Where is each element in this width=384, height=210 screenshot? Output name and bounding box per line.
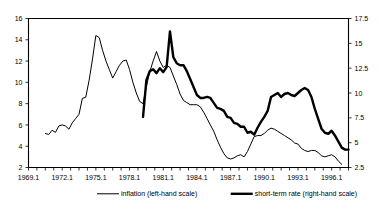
y-tick-label-left: 8 (19, 100, 23, 107)
y-tick-label-right: 15 (355, 40, 363, 47)
x-tick-label: 1975.1 (85, 174, 107, 181)
y-tick-label-right: 17.5 (355, 15, 369, 22)
y-tick-label-left: 10 (15, 79, 23, 86)
x-tick-label: 1984.1 (186, 174, 208, 181)
x-tick-label: 1978.1 (119, 174, 141, 181)
series-line-2 (143, 31, 348, 149)
axis-frame (29, 19, 349, 168)
y-tick-label-left: 16 (15, 15, 23, 22)
x-tick-label: 1987.1 (220, 174, 242, 181)
y-tick-label-left: 14 (15, 36, 23, 43)
y-tick-label-left: 6 (19, 122, 23, 129)
y-tick-label-right: 12.5 (355, 65, 369, 72)
series-line-1 (45, 36, 341, 165)
y-tick-label-right: 2.5 (355, 164, 365, 171)
x-axis-tick-labels: 1969.11972.11975.11978.11981.11984.11987… (18, 174, 343, 181)
y-tick-label-right: 7.5 (355, 114, 365, 121)
y-tick-label-left: 12 (15, 58, 23, 65)
y-axis-right-tick-labels: 2.557.51012.51517.5 (355, 15, 369, 171)
x-tick-label: 1972.1 (51, 174, 73, 181)
chart-legend: inflation (left-hand scale)short-term ra… (97, 190, 357, 198)
y-tick-label-right: 10 (355, 90, 363, 97)
x-tick-label: 1996.1 (321, 174, 343, 181)
y-tick-label-left: 2 (19, 164, 23, 171)
x-tick-label: 1990.1 (254, 174, 276, 181)
y-axis-left-tick-labels: 246810121416 (15, 15, 23, 171)
data-series-group (45, 31, 348, 164)
y-tick-label-left: 4 (19, 143, 23, 150)
x-tick-label: 1981.1 (153, 174, 175, 181)
x-tick-label: 1993.1 (287, 174, 309, 181)
plot-frame (29, 19, 349, 168)
legend-label-2: short-term rate (right-hand scale) (255, 190, 357, 198)
inflation-vs-short-term-rate-chart: 1969.11972.11975.11978.11981.11984.11987… (0, 0, 384, 210)
y-tick-label-right: 5 (355, 139, 359, 146)
x-tick-label: 1969.1 (18, 174, 40, 181)
legend-label-1: inflation (left-hand scale) (121, 190, 197, 198)
chart-container: 1969.11972.11975.11978.11981.11984.11987… (0, 0, 384, 210)
